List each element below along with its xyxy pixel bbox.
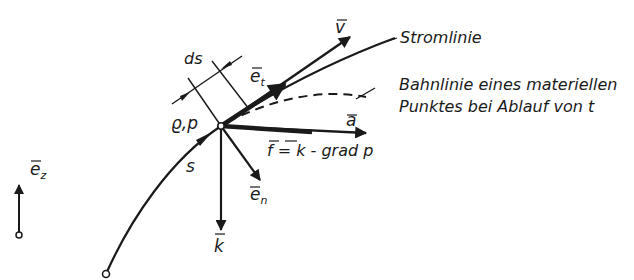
- force-equation-label: f = k - grad p: [267, 141, 373, 160]
- streamline-label: Stromlinie: [400, 28, 482, 47]
- ez-label: ez: [30, 159, 46, 182]
- ez-origin: [16, 232, 22, 238]
- a-label: a: [346, 110, 356, 130]
- ds-arrow-right: [221, 61, 232, 69]
- et-base: e: [250, 66, 260, 86]
- ds-perp-line-2: [212, 61, 249, 109]
- et-sub: t: [260, 76, 265, 89]
- en-sub: n: [260, 194, 267, 207]
- et-label: et: [250, 66, 265, 89]
- en-label: en: [250, 184, 267, 207]
- ds-label: ds: [184, 49, 203, 68]
- material-point: [218, 123, 224, 129]
- ds-arrow-left: [180, 92, 190, 101]
- ez-base: e: [30, 159, 40, 179]
- f-vector: [221, 126, 312, 132]
- et-vector: [221, 84, 285, 126]
- en-base: e: [250, 184, 260, 204]
- ez-sub: z: [39, 169, 46, 182]
- v-label: v: [335, 17, 346, 37]
- s-label: s: [186, 156, 195, 176]
- en-vector: [221, 126, 260, 180]
- k-label: k: [214, 236, 225, 256]
- pathline-label-line1: Bahnlinie eines materiellen: [399, 75, 617, 94]
- streamline-diagram: Stromlinie Bahnlinie eines materiellen P…: [0, 0, 634, 280]
- streamline-start-point: [103, 271, 110, 278]
- rho-p-label: ϱ,p: [171, 113, 198, 133]
- pathline-label-line2: Punktes bei Ablauf von t: [399, 97, 595, 116]
